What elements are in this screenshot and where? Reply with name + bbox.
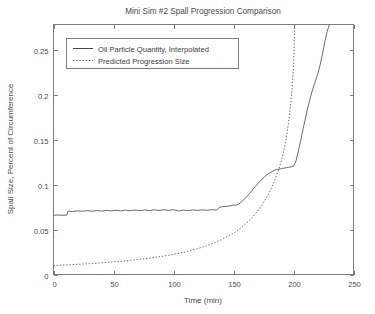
x-axis-label: Time (min) bbox=[184, 296, 222, 305]
x-tick-label: 200 bbox=[288, 280, 301, 289]
x-axis-ticklabels: 050100150200250 bbox=[52, 280, 360, 289]
y-tick-label: 0.05 bbox=[34, 227, 49, 236]
legend-label-predicted-progression-size: Predicted Progression Size bbox=[98, 57, 190, 66]
legend-label-oil-particle-quantity: Oil Particle Quantity, Interpolated bbox=[98, 45, 209, 54]
chart-title: Mini Sim #2 Spall Progression Comparison bbox=[125, 7, 281, 16]
y-tick-label: 0.1 bbox=[38, 182, 49, 191]
chart-svg: Mini Sim #2 Spall Progression Comparison… bbox=[0, 0, 375, 314]
y-axis-ticklabels: 00.050.10.150.20.25 bbox=[34, 47, 49, 281]
y-tick-label: 0.25 bbox=[34, 47, 49, 56]
x-tick-label: 50 bbox=[110, 280, 118, 289]
y-axis-tickmarks bbox=[54, 51, 354, 276]
y-tick-label: 0.2 bbox=[38, 92, 49, 101]
x-tick-label: 100 bbox=[168, 280, 181, 289]
x-tick-label: 150 bbox=[228, 280, 241, 289]
figure-canvas: Mini Sim #2 Spall Progression Comparison… bbox=[0, 0, 375, 314]
x-tick-label: 250 bbox=[348, 280, 361, 289]
y-tick-label: 0.15 bbox=[34, 137, 49, 146]
x-tick-label: 0 bbox=[52, 280, 56, 289]
y-tick-label: 0 bbox=[44, 272, 48, 281]
y-axis-label: Spall Size, Percent of Circumference bbox=[6, 83, 15, 214]
chart-legend: Oil Particle Quantity, Interpolated Pred… bbox=[67, 39, 239, 69]
